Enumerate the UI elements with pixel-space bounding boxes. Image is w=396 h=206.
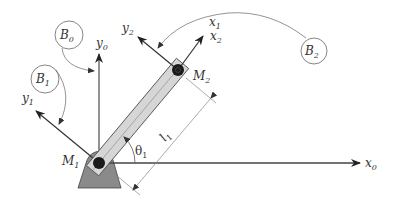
label-x0: x0 <box>365 156 377 172</box>
label-y1: y1 <box>21 91 34 107</box>
body-b2 <box>158 13 327 64</box>
label-y2: y2 <box>121 21 134 37</box>
x2-axis <box>178 36 203 70</box>
label-y0: y0 <box>95 36 108 52</box>
label-m2: M2 <box>192 69 210 85</box>
y2-axis <box>138 37 178 70</box>
label-m1: M1 <box>61 154 79 170</box>
label-b1: B1 <box>35 72 50 88</box>
label-theta1: θ1 <box>135 144 147 160</box>
joint-m2 <box>172 64 184 76</box>
joint-m1 <box>93 157 105 169</box>
label-b2: B2 <box>304 44 319 60</box>
label-l1: l1 <box>157 128 175 145</box>
label-x2: x2 <box>210 29 222 45</box>
robot-link-diagram: x0 y0 y1 x1 x2 y2 M1 M2 B0 B1 B2 θ1 l1 <box>0 0 396 206</box>
label-b0: B0 <box>59 28 74 44</box>
